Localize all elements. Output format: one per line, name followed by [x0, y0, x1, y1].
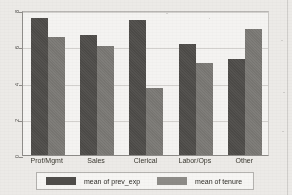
bar [80, 35, 97, 155]
bar [179, 44, 196, 155]
plot-area [22, 11, 269, 156]
bar [228, 59, 245, 155]
bar-group [122, 12, 171, 155]
bar [129, 20, 146, 155]
bar [245, 29, 262, 155]
bars-layer [23, 12, 268, 155]
legend-label: mean of prev_exp [84, 178, 140, 185]
page-edge-artifact [287, 0, 288, 195]
legend-item-prev-exp: mean of prev_exp [46, 173, 140, 189]
x-tick-label: Clerical [121, 157, 170, 164]
legend-swatch-icon [157, 177, 187, 185]
y-tick-label: 8 [14, 10, 20, 13]
bar-group [72, 12, 121, 155]
scan-speck [282, 131, 284, 132]
bar [97, 46, 114, 155]
y-tick-label: 2 [14, 119, 20, 122]
legend-item-tenure: mean of tenure [157, 173, 242, 189]
x-axis-labels: Prof/MgmtSalesClericalLabor/OpsOther [22, 157, 269, 169]
chart-legend: mean of prev_exp mean of tenure [36, 172, 254, 190]
legend-swatch-icon [46, 177, 76, 185]
y-tick-label: 6 [14, 46, 20, 49]
bar-group [23, 12, 72, 155]
scan-speck [209, 18, 210, 19]
bar-group [171, 12, 220, 155]
scan-speck [283, 92, 285, 93]
scan-speck [281, 40, 283, 41]
y-tick-label: 4 [14, 83, 20, 86]
bar [146, 88, 163, 155]
x-tick-label: Sales [71, 157, 120, 164]
bar [196, 63, 213, 155]
bar [31, 18, 48, 155]
x-tick-label: Labor/Ops [170, 157, 219, 164]
scan-speck [166, 13, 168, 14]
x-tick-label: Other [220, 157, 269, 164]
bar-group [221, 12, 270, 155]
bar [48, 37, 65, 155]
y-tick-label: 0 [14, 155, 20, 158]
bar-chart-figure: 02468 Prof/MgmtSalesClericalLabor/OpsOth… [0, 0, 292, 195]
x-tick-label: Prof/Mgmt [22, 157, 71, 164]
legend-label: mean of tenure [195, 178, 242, 185]
